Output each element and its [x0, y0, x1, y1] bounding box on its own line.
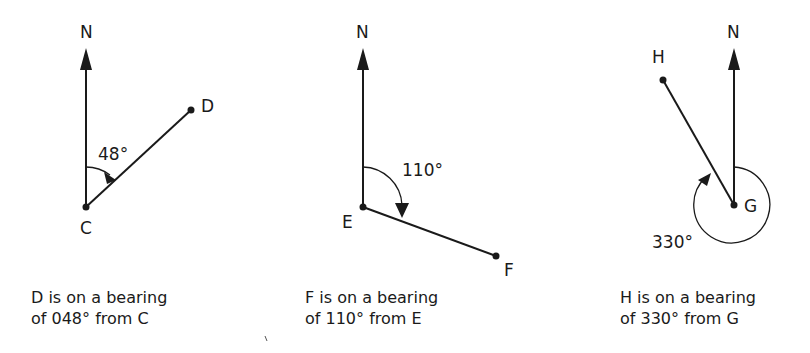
angle-label: 110°	[402, 160, 443, 180]
bearing-line	[363, 207, 496, 256]
caption-line-2: of 330° from G	[620, 308, 756, 329]
point-label-g: G	[744, 196, 757, 216]
diagram-c-d: N 48° C D	[80, 22, 214, 238]
point-e	[360, 204, 367, 211]
caption-line-1: D is on a bearing	[31, 287, 167, 308]
caption-line-1: F is on a bearing	[305, 287, 438, 308]
north-label: N	[356, 22, 369, 42]
north-label: N	[727, 22, 740, 42]
point-label-d: D	[201, 96, 214, 116]
point-g	[731, 202, 738, 209]
scan-mark	[265, 336, 267, 341]
point-label-f: F	[504, 260, 514, 280]
caption-line-2: of 110° from E	[305, 308, 438, 329]
point-h	[660, 77, 667, 84]
north-arrow-icon	[357, 48, 369, 70]
caption-line-2: of 048° from C	[31, 308, 167, 329]
point-f	[493, 253, 500, 260]
angle-label: 48°	[98, 144, 128, 164]
north-label: N	[80, 22, 93, 42]
point-label-e: E	[342, 212, 353, 232]
north-arrow-icon	[728, 48, 740, 70]
north-arrow-icon	[80, 48, 92, 70]
caption-e-f: F is on a bearing of 110° from E	[305, 287, 438, 329]
point-label-c: C	[80, 218, 92, 238]
caption-g-h: H is on a bearing of 330° from G	[620, 287, 756, 329]
point-label-h: H	[652, 47, 665, 67]
diagram-g-h: N 330° G H	[652, 22, 770, 252]
angle-arc	[363, 167, 402, 205]
caption-line-1: H is on a bearing	[620, 287, 756, 308]
angle-label: 330°	[652, 232, 693, 252]
angle-arrow-icon	[395, 203, 409, 218]
diagram-e-f: N 110° E F	[342, 22, 514, 280]
point-c	[83, 204, 90, 211]
point-d	[188, 107, 195, 114]
caption-c-d: D is on a bearing of 048° from C	[31, 287, 167, 329]
